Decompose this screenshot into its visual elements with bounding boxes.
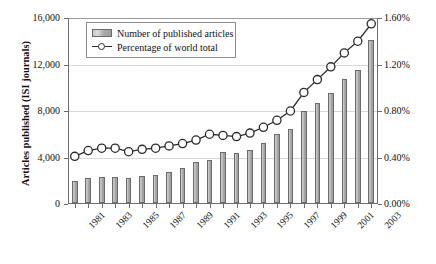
- x-axis-tick: [223, 204, 224, 208]
- y-axis-right-tick-label: 0.40%: [384, 152, 410, 163]
- x-axis-tick-label: 2003: [383, 210, 404, 231]
- y-axis-left-tick: [64, 204, 68, 205]
- x-axis-tick: [371, 204, 372, 208]
- y-axis-left-tick-label: 4,000: [8, 152, 60, 163]
- x-axis-tick: [263, 204, 264, 208]
- axis-top: [68, 18, 378, 19]
- y-axis-left-tick-label: 8,000: [8, 105, 60, 116]
- x-axis-tick: [331, 204, 332, 208]
- y-axis-right-tick: [378, 18, 382, 19]
- y-axis-left-tick-label: 0: [8, 198, 60, 209]
- y-axis-left-tick: [64, 111, 68, 112]
- x-axis-tick-label: 1987: [167, 210, 188, 231]
- legend-item-bars-label: Number of published articles: [117, 28, 233, 39]
- x-axis-tick: [88, 204, 89, 208]
- line-marker: [367, 20, 375, 28]
- line-marker: [313, 76, 321, 84]
- y-axis-left-tick: [64, 158, 68, 159]
- legend-bar-swatch-icon: [92, 29, 112, 37]
- x-axis-tick-label: 1981: [86, 210, 107, 231]
- legend-item-line-label: Percentage of world total: [117, 42, 218, 53]
- y-axis-right-tick: [378, 65, 382, 66]
- x-axis-tick: [156, 204, 157, 208]
- y-axis-right-tick-label: 1.20%: [384, 59, 410, 70]
- x-axis-tick-label: 1989: [194, 210, 215, 231]
- y-axis-left-tick: [64, 18, 68, 19]
- y-axis-right-tick-label: 1.60%: [384, 12, 410, 23]
- x-axis-tick-label: 1985: [140, 210, 161, 231]
- axis-left: [68, 18, 69, 204]
- line-marker: [138, 145, 146, 153]
- x-axis-tick: [237, 204, 238, 208]
- y-axis-left-tick-label: 12,000: [8, 59, 60, 70]
- line-marker: [340, 49, 348, 57]
- line-marker: [286, 107, 294, 115]
- y-axis-right-tick: [378, 158, 382, 159]
- legend-item-bars: Number of published articles: [92, 26, 230, 40]
- line-marker: [232, 132, 240, 140]
- y-axis-left-tick-label: 16,000: [8, 12, 60, 23]
- y-axis-right-tick-label: 0.00%: [384, 198, 410, 209]
- line-marker: [192, 136, 200, 144]
- line-marker: [273, 116, 281, 124]
- x-axis-tick: [102, 204, 103, 208]
- line-marker: [98, 144, 106, 152]
- x-axis-tick: [290, 204, 291, 208]
- x-axis-tick: [344, 204, 345, 208]
- x-axis-tick-label: 1991: [221, 210, 242, 231]
- chart-figure: Articles published (ISI journals) Fracti…: [0, 0, 436, 264]
- x-axis-tick: [358, 204, 359, 208]
- x-axis-tick: [304, 204, 305, 208]
- line-marker: [84, 146, 92, 154]
- x-axis-tick: [210, 204, 211, 208]
- line-marker: [300, 88, 308, 96]
- x-axis-tick: [250, 204, 251, 208]
- x-axis-tick: [169, 204, 170, 208]
- x-axis-tick-label: 1995: [275, 210, 296, 231]
- y-axis-right-tick: [378, 111, 382, 112]
- line-marker: [71, 152, 79, 160]
- x-axis-tick: [142, 204, 143, 208]
- legend-line-swatch-icon: [92, 42, 112, 52]
- x-axis-tick-label: 1993: [248, 210, 269, 231]
- x-axis-tick-label: 1999: [329, 210, 350, 231]
- line-marker: [219, 131, 227, 139]
- chart-legend: Number of published articles Percentage …: [86, 22, 236, 58]
- line-marker: [354, 37, 362, 45]
- x-axis-tick-label: 2001: [356, 210, 377, 231]
- line-marker: [259, 123, 267, 131]
- line-marker: [178, 139, 186, 147]
- x-axis-tick: [75, 204, 76, 208]
- y-axis-right-tick: [378, 204, 382, 205]
- line-marker: [327, 63, 335, 71]
- x-axis-tick: [115, 204, 116, 208]
- line-marker: [152, 144, 160, 152]
- x-axis-tick: [317, 204, 318, 208]
- x-axis-tick: [277, 204, 278, 208]
- line-marker: [125, 148, 133, 156]
- line-marker: [246, 129, 254, 137]
- y-axis-right-tick-label: 0.80%: [384, 105, 410, 116]
- x-axis-tick: [183, 204, 184, 208]
- x-axis-tick-label: 1983: [113, 210, 134, 231]
- line-marker: [205, 130, 213, 138]
- legend-item-line: Percentage of world total: [92, 40, 230, 54]
- line-marker: [165, 142, 173, 150]
- x-axis-tick: [196, 204, 197, 208]
- x-axis-tick: [129, 204, 130, 208]
- y-axis-left-tick: [64, 65, 68, 66]
- x-axis-tick-label: 1997: [302, 210, 323, 231]
- line-marker: [111, 144, 119, 152]
